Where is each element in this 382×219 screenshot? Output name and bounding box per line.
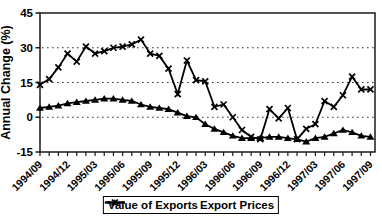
y-tick-label: 45 bbox=[20, 7, 33, 19]
triangle-marker-icon bbox=[104, 197, 126, 208]
y-tick-label: -15 bbox=[16, 146, 33, 158]
legend: Value of ExportsExport Prices bbox=[103, 196, 279, 214]
y-tick-label: 30 bbox=[20, 42, 33, 54]
legend-item: Export Prices bbox=[200, 199, 274, 211]
plot-area: 4530150-151994/091994/121995/031995/0619… bbox=[0, 0, 382, 219]
y-tick-label: 0 bbox=[27, 111, 33, 123]
legend-label: Export Prices bbox=[200, 199, 274, 211]
x-tick-label: 1997/09 bbox=[340, 158, 375, 193]
y-tick-label: 15 bbox=[20, 77, 33, 89]
chart: 4530150-151994/091994/121995/031995/0619… bbox=[0, 0, 382, 219]
y-axis-title: Annual Change (%) bbox=[0, 12, 15, 153]
